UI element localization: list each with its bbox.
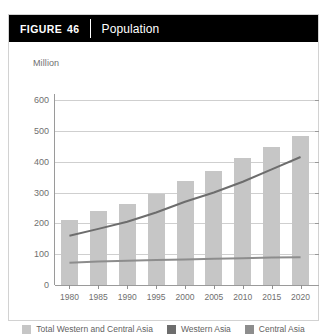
legend-label: Western Asia — [181, 324, 231, 334]
legend-swatch-icon — [245, 325, 254, 334]
line-series — [69, 157, 300, 236]
plot-area: Million 0100200300400500600 198019851990… — [9, 42, 318, 320]
x-tick-label-2015: 2015 — [262, 292, 281, 302]
x-tick-mark-1995 — [156, 285, 157, 289]
y-tick-label-400: 400 — [34, 157, 49, 167]
x-tick-mark-1990 — [127, 285, 128, 289]
x-tick-label-1985: 1985 — [89, 292, 108, 302]
figure-tag: FIGURE 46 — [9, 15, 90, 42]
figure-tag-number: 46 — [67, 23, 79, 35]
y-tick-mark-300 — [315, 193, 319, 194]
legend-item: Western Asia — [167, 324, 231, 334]
line-series-group — [55, 100, 315, 285]
legend-swatch-icon — [22, 325, 31, 334]
figure-tag-word: FIGURE — [20, 23, 62, 35]
x-tick-mark-2010 — [243, 285, 244, 289]
x-tick-mark-2005 — [214, 285, 215, 289]
y-tick-mark-200 — [315, 223, 319, 224]
y-tick-mark-500 — [315, 131, 319, 132]
x-tick-mark-2015 — [272, 285, 273, 289]
y-tick-label-200: 200 — [34, 218, 49, 228]
x-tick-label-2000: 2000 — [176, 292, 195, 302]
y-tick-label-300: 300 — [34, 188, 49, 198]
y-tick-label-100: 100 — [34, 249, 49, 259]
figure-header: FIGURE 46 Population — [9, 15, 318, 42]
x-tick-label-1995: 1995 — [147, 292, 166, 302]
x-tick-label-2005: 2005 — [204, 292, 223, 302]
plot-canvas: 0100200300400500600 19801985199019952000… — [55, 100, 315, 285]
y-tick-mark-400 — [315, 162, 319, 163]
figure-title: Population — [91, 15, 160, 42]
x-tick-mark-2020 — [301, 285, 302, 289]
y-tick-mark-100 — [315, 254, 319, 255]
line-series — [69, 257, 300, 263]
x-tick-mark-1985 — [98, 285, 99, 289]
chart-legend: Total Western and Central AsiaWestern As… — [9, 324, 318, 334]
y-axis-unit-label: Million — [33, 58, 59, 68]
legend-swatch-icon — [167, 325, 176, 334]
legend-label: Total Western and Central Asia — [36, 324, 153, 334]
x-tick-label-2010: 2010 — [233, 292, 252, 302]
y-tick-label-600: 600 — [34, 95, 49, 105]
y-tick-label-0: 0 — [44, 280, 49, 290]
x-tick-mark-1980 — [69, 285, 70, 289]
x-tick-label-1990: 1990 — [118, 292, 137, 302]
figure-card: FIGURE 46 Population Million 01002003004… — [8, 14, 319, 321]
y-tick-mark-600 — [315, 100, 319, 101]
x-tick-mark-2000 — [185, 285, 186, 289]
legend-label: Central Asia — [259, 324, 305, 334]
y-tick-label-500: 500 — [34, 126, 49, 136]
legend-item: Central Asia — [245, 324, 305, 334]
y-tick-mark-0 — [315, 285, 319, 286]
legend-item: Total Western and Central Asia — [22, 324, 153, 334]
x-tick-label-2020: 2020 — [291, 292, 310, 302]
x-tick-label-1980: 1980 — [60, 292, 79, 302]
